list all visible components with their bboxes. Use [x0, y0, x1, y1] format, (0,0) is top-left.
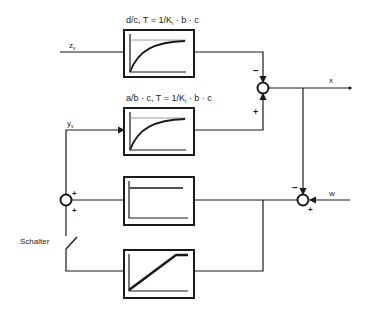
block-3 — [124, 177, 194, 225]
sum2-minus-sign: – — [292, 182, 298, 193]
block-1 — [124, 30, 194, 77]
switch-label: Schalter — [20, 237, 50, 246]
summing-junction-2 — [298, 195, 309, 206]
switch[interactable] — [66, 237, 77, 249]
sum1-plus-sign: + — [253, 107, 258, 117]
y-input-label: yv — [67, 119, 74, 129]
block-4 — [124, 250, 194, 298]
block-1-label: d/c, T = 1/Ki · b · c — [126, 15, 199, 26]
sum1-minus-sign: – — [253, 65, 259, 76]
y-input-line — [66, 130, 124, 195]
sum3-plus-bottom-sign: + — [72, 206, 77, 215]
summing-junction-1 — [258, 83, 269, 94]
x-output-label: x — [329, 76, 333, 85]
block-diagram: d/c, T = 1/Ki · b · c a/b · c, T = 1/Ki … — [0, 0, 370, 313]
block-2 — [124, 108, 194, 155]
switch-lower-line — [66, 249, 124, 271]
w-label: w — [328, 189, 335, 198]
sum3-plus-top-sign: + — [72, 189, 77, 198]
sum2-plus-sign: + — [308, 205, 313, 214]
block-2-label: a/b · c, T = 1/Ki · b · c — [126, 93, 212, 104]
block4-output-line — [194, 200, 263, 271]
z-input-label: zv — [69, 41, 76, 51]
summing-junction-3 — [61, 195, 72, 206]
